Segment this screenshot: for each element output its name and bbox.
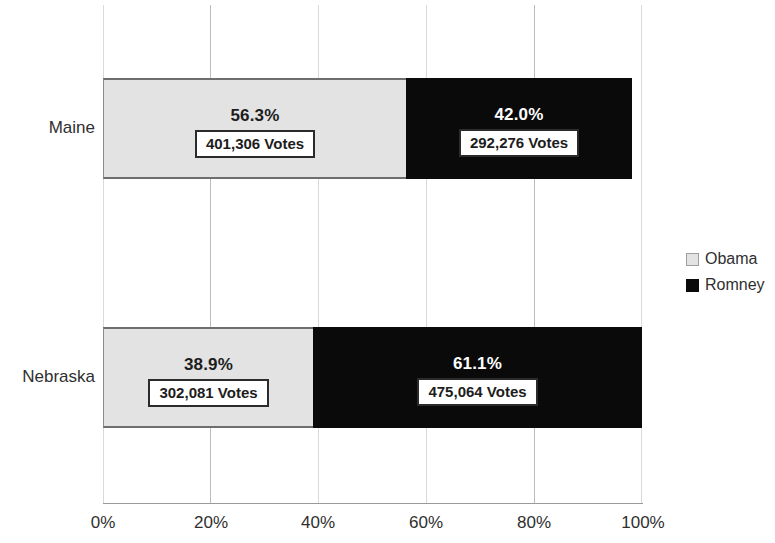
- x-tick-label-60: 60%: [381, 512, 471, 534]
- light-gray-square-icon: [686, 253, 699, 266]
- legend-label-obama: Obama: [705, 250, 757, 268]
- bar-segment-labels: 42.0% 292,276 Votes: [406, 105, 632, 157]
- bar-votes-label: 401,306 Votes: [195, 130, 315, 158]
- legend-item-romney[interactable]: Romney: [686, 272, 774, 298]
- category-label-maine: Maine: [0, 118, 95, 138]
- category-label-nebraska: Nebraska: [0, 367, 95, 387]
- bar-votes-label: 475,064 Votes: [417, 378, 537, 406]
- y-axis-labels: Maine Nebraska: [0, 0, 95, 543]
- stacked-bar-chart: 56.3% 401,306 Votes 42.0% 292,276 Votes …: [0, 0, 775, 543]
- x-tick-label-20: 20%: [166, 512, 256, 534]
- bar-segment-labels: 56.3% 401,306 Votes: [104, 106, 406, 158]
- table-row[interactable]: 56.3% 401,306 Votes 42.0% 292,276 Votes: [103, 78, 642, 179]
- bar-value-label: 38.9%: [184, 355, 233, 375]
- legend-label-romney: Romney: [705, 276, 765, 294]
- bar-segment-maine-romney[interactable]: 42.0% 292,276 Votes: [406, 78, 632, 179]
- x-tick-label-40: 40%: [273, 512, 363, 534]
- x-tick-label-100: 100%: [598, 512, 688, 534]
- bar-segment-nebraska-obama[interactable]: 38.9% 302,081 Votes: [103, 327, 313, 428]
- legend: Obama Romney: [686, 246, 774, 298]
- legend-item-obama[interactable]: Obama: [686, 246, 774, 272]
- bar-segment-labels: 61.1% 475,064 Votes: [313, 354, 642, 406]
- black-square-icon: [686, 279, 699, 292]
- table-row[interactable]: 38.9% 302,081 Votes 61.1% 475,064 Votes: [103, 327, 642, 428]
- x-tick-label-0: 0%: [58, 512, 148, 534]
- bar-segment-nebraska-romney[interactable]: 61.1% 475,064 Votes: [313, 327, 642, 428]
- bar-value-label: 56.3%: [230, 106, 279, 126]
- bar-value-label: 61.1%: [453, 354, 502, 374]
- bar-value-label: 42.0%: [494, 105, 543, 125]
- x-tick-label-80: 80%: [489, 512, 579, 534]
- bar-votes-label: 292,276 Votes: [459, 129, 579, 157]
- bar-segment-labels: 38.9% 302,081 Votes: [104, 355, 313, 407]
- bar-votes-label: 302,081 Votes: [148, 379, 268, 407]
- x-axis-line: [103, 503, 643, 504]
- x-axis-labels: 0% 20% 40% 60% 80% 100%: [0, 512, 775, 542]
- plot-area: 56.3% 401,306 Votes 42.0% 292,276 Votes …: [103, 5, 642, 503]
- bar-segment-maine-obama[interactable]: 56.3% 401,306 Votes: [103, 78, 406, 179]
